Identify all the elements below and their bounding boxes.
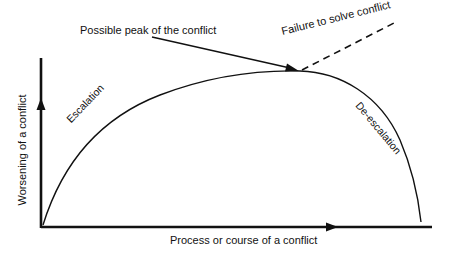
- peak-pointer-line: [152, 37, 290, 68]
- x-axis-arrow-icon: [326, 223, 338, 232]
- y-axis-label: Worsening of a conflict: [17, 94, 28, 205]
- y-axis-arrow-icon: [37, 98, 46, 110]
- x-axis-label: Process or course of a conflict: [170, 235, 317, 246]
- peak-label: Possible peak of the conflict: [80, 25, 216, 36]
- conflict-diagram: Possible peak of the conflict Failure to…: [0, 0, 455, 256]
- peak-arrow-icon: [285, 64, 299, 72]
- failure-dashed-line: [302, 22, 396, 70]
